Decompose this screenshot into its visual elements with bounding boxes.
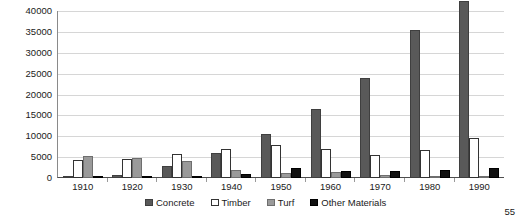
bar-group: [256, 11, 306, 178]
y-axis-tick-label: 15000: [26, 110, 52, 120]
bar-group: [108, 11, 158, 178]
bar-groups: [58, 11, 504, 178]
y-axis-tick-label: 40000: [26, 6, 52, 16]
bar-timber-1910: [73, 160, 83, 178]
bar-timber-1970: [370, 155, 380, 178]
bar-concrete-1970: [360, 78, 370, 178]
legend-item-timber[interactable]: Timber: [211, 197, 251, 208]
bar-turf-1970: [380, 175, 390, 178]
y-axis-tick-label: 10000: [26, 131, 52, 141]
x-axis-tick-label: 1940: [207, 180, 257, 194]
x-axis-tick-label: 1910: [58, 180, 108, 194]
y-axis-tick-label: 25000: [26, 69, 52, 79]
legend-item-concrete[interactable]: Concrete: [145, 197, 195, 208]
bar-turf-1960: [331, 172, 341, 178]
legend-label: Concrete: [156, 197, 195, 208]
bar-concrete-1920: [112, 175, 122, 178]
bar-turf-1990: [479, 176, 489, 178]
bar-turf-1920: [132, 158, 142, 178]
y-axis-tick-label: 5000: [31, 152, 52, 162]
x-axis-tick-label: 1980: [405, 180, 455, 194]
bar-turf-1980: [430, 176, 440, 178]
bar-other-materials-1920: [142, 176, 152, 178]
bar-other-materials-1980: [440, 170, 450, 178]
bar-concrete-1940: [211, 153, 221, 178]
bar-group: [306, 11, 356, 178]
bar-concrete-1910: [63, 176, 73, 178]
bar-chart-figure: 4000035000300002500020000150001000050000…: [0, 0, 523, 219]
bar-other-materials-1940: [241, 174, 251, 178]
y-axis-tick-label: 35000: [26, 27, 52, 37]
bar-turf-1910: [83, 156, 93, 178]
y-axis-tick-label: 20000: [26, 90, 52, 100]
bar-other-materials-1970: [390, 171, 400, 179]
bar-other-materials-1950: [291, 168, 301, 178]
x-axis-tick-label: 1920: [108, 180, 158, 194]
bar-group: [207, 11, 257, 178]
legend-label: Other Materials: [321, 197, 386, 208]
x-axis-tick-label: 1970: [355, 180, 405, 194]
x-axis-tick-label: 1950: [256, 180, 306, 194]
bar-turf-1950: [281, 173, 291, 178]
y-axis-tick-label: 0: [47, 173, 52, 183]
bar-other-materials-1930: [192, 176, 202, 178]
bar-other-materials-1910: [93, 176, 103, 178]
legend-swatch-icon: [145, 199, 153, 206]
bar-group: [58, 11, 108, 178]
bar-group: [455, 11, 505, 178]
x-axis-tick-label: 1930: [157, 180, 207, 194]
legend-label: Turf: [278, 197, 295, 208]
chart-legend: ConcreteTimberTurfOther Materials: [145, 197, 386, 208]
bar-timber-1950: [271, 145, 281, 178]
bar-turf-1940: [231, 170, 241, 178]
legend-item-other-materials[interactable]: Other Materials: [310, 197, 386, 208]
bar-group: [355, 11, 405, 178]
legend-item-turf[interactable]: Turf: [267, 197, 295, 208]
bar-group: [405, 11, 455, 178]
x-axis-tick-label: 1990: [455, 180, 505, 194]
bar-timber-1990: [469, 138, 479, 178]
bar-timber-1960: [321, 149, 331, 178]
bar-concrete-1960: [311, 109, 321, 178]
x-axis-labels: 191019201930194019501960197019801990: [58, 180, 504, 194]
legend-swatch-icon: [267, 199, 275, 206]
bar-group: [157, 11, 207, 178]
legend-swatch-icon: [310, 199, 318, 206]
y-axis-tick-label: 30000: [26, 48, 52, 58]
page-number: 55: [504, 206, 515, 217]
bar-timber-1940: [221, 149, 231, 178]
y-axis-labels: 4000035000300002500020000150001000050000: [0, 0, 52, 178]
bar-concrete-1950: [261, 134, 271, 178]
bar-concrete-1990: [459, 1, 469, 178]
bar-other-materials-1960: [341, 171, 351, 178]
legend-label: Timber: [222, 197, 251, 208]
bar-other-materials-1990: [489, 168, 499, 178]
bar-concrete-1930: [162, 166, 172, 178]
bar-timber-1920: [122, 159, 132, 178]
legend-swatch-icon: [211, 199, 219, 206]
bar-timber-1980: [420, 150, 430, 178]
bar-timber-1930: [172, 154, 182, 178]
bar-turf-1930: [182, 161, 192, 178]
bar-concrete-1980: [410, 30, 420, 178]
x-axis-tick-label: 1960: [306, 180, 356, 194]
